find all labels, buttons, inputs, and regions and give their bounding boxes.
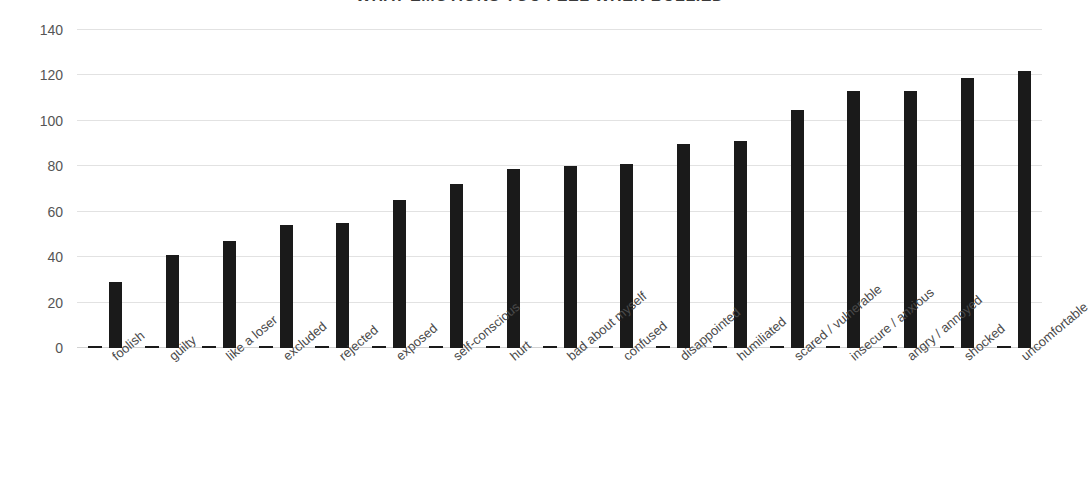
bar-group — [134, 30, 191, 348]
bar — [599, 346, 613, 348]
bar-group — [191, 30, 248, 348]
bar — [336, 223, 349, 348]
bar-group — [531, 30, 588, 348]
bar — [1018, 71, 1031, 348]
bar — [677, 144, 690, 348]
bar-group — [474, 30, 531, 348]
bar — [564, 166, 577, 348]
bar-group — [247, 30, 304, 348]
plot-area — [77, 30, 1042, 348]
bar — [883, 346, 897, 348]
bar — [372, 346, 386, 348]
bar — [223, 241, 236, 348]
y-tick-label: 140 — [8, 23, 63, 37]
bar-group — [361, 30, 418, 348]
chart-title: WHAT EMOTIONS YOU FEEL WHEN BULLIED — [0, 0, 1080, 4]
y-tick-label: 20 — [8, 296, 63, 310]
bar — [393, 200, 406, 348]
bar — [429, 346, 443, 348]
bar — [826, 346, 840, 348]
bar — [88, 346, 102, 348]
bar-group — [985, 30, 1042, 348]
bar — [259, 346, 273, 348]
bar — [486, 346, 500, 348]
bar — [450, 184, 463, 348]
bar — [166, 255, 179, 348]
bar — [109, 282, 122, 348]
bar — [997, 346, 1011, 348]
bar — [145, 346, 159, 348]
bar-group — [77, 30, 134, 348]
bar — [791, 110, 804, 349]
y-tick-label: 80 — [8, 159, 63, 173]
y-tick-label: 0 — [8, 341, 63, 355]
y-tick-label: 60 — [8, 205, 63, 219]
bar-group — [758, 30, 815, 348]
bar-group — [645, 30, 702, 348]
bar — [202, 346, 216, 348]
y-tick-label: 40 — [8, 250, 63, 264]
y-tick-label: 100 — [8, 114, 63, 128]
bar-series — [77, 30, 1042, 348]
x-axis-labels: foolishguiltylike a loserexcludedrejecte… — [77, 352, 1042, 492]
bar — [713, 346, 727, 348]
bar — [543, 346, 557, 348]
y-tick-label: 120 — [8, 68, 63, 82]
bar — [656, 346, 670, 348]
bar — [770, 346, 784, 348]
bar — [315, 346, 329, 348]
bar-group — [304, 30, 361, 348]
bar-group — [418, 30, 475, 348]
bar — [940, 346, 954, 348]
bar — [280, 225, 293, 348]
bar-group — [701, 30, 758, 348]
